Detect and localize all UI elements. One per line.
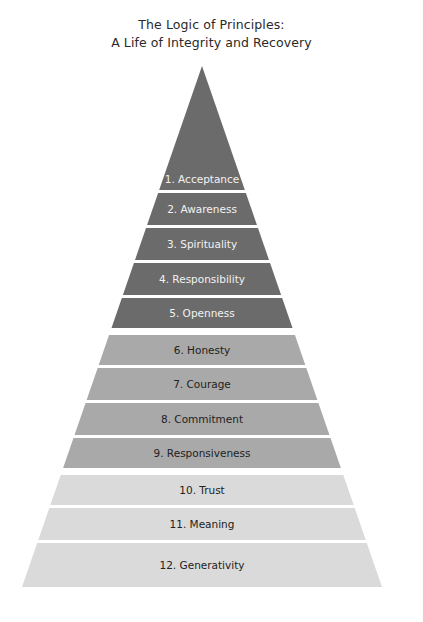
pyramid-band: 11. Meaning [38,508,366,540]
pyramid-band: 3. Spirituality [135,228,269,260]
band-label: 7. Courage [173,378,231,390]
band-label: 3. Spirituality [167,238,237,250]
pyramid-band: 8. Commitment [75,403,330,435]
band-label: 2. Awareness [167,203,237,215]
principles-pyramid: 1. Acceptance2. Awareness3. Spirituality… [0,0,423,622]
band-label: 11. Meaning [170,518,235,530]
pyramid-band: 10. Trust [50,475,353,505]
band-shape-dark [159,66,245,190]
pyramid-band: 7. Courage [87,368,318,400]
pyramid-band: 9. Responsiveness [63,438,341,468]
pyramid-band: 5. Openness [111,298,292,328]
pyramid-band: 12. Generativity [22,543,382,587]
pyramid-band: 2. Awareness [147,193,257,225]
band-label: 1. Acceptance [165,173,239,185]
pyramid-band: 1. Acceptance [159,66,245,190]
band-label: 9. Responsiveness [154,447,251,459]
band-label: 5. Openness [169,307,234,319]
pyramid-band: 4. Responsibility [123,263,281,295]
band-label: 6. Honesty [174,344,231,356]
band-label: 10. Trust [179,484,224,496]
pyramid-band: 6. Honesty [99,335,306,365]
band-label: 12. Generativity [160,559,245,571]
band-label: 8. Commitment [161,413,243,425]
band-label: 4. Responsibility [159,273,245,285]
